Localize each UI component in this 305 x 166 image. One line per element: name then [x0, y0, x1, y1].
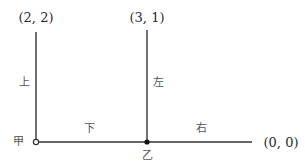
edge-label-right: 右 [196, 122, 207, 136]
open-circle-marker [33, 139, 38, 144]
coord-label-3-1: (3, 1) [130, 11, 165, 25]
coord-label-0-0: (0, 0) [264, 136, 299, 150]
edge-label-up: 上 [19, 76, 30, 90]
point-label-yi: 乙 [142, 149, 153, 163]
coord-label-2-2: (2, 2) [19, 11, 54, 25]
edge-label-down: 下 [84, 122, 95, 136]
edge-label-left: 左 [153, 76, 164, 90]
filled-dot-marker [144, 139, 149, 144]
point-label-jia: 甲 [13, 135, 24, 149]
